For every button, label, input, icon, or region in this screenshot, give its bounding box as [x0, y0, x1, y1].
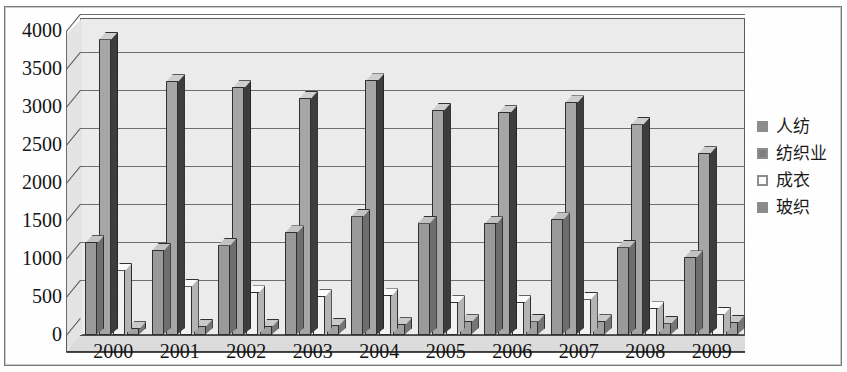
bar-side-face — [709, 146, 717, 335]
bar-front-face — [684, 257, 696, 335]
y-axis-tick-label: 3500 — [0, 58, 62, 78]
x-axis-tick-label: 2001 — [147, 339, 213, 363]
legend-swatch-icon — [757, 148, 768, 159]
bar-side-face — [642, 117, 650, 335]
y-axis-tick-label: 2500 — [0, 134, 62, 154]
bar-side-face — [177, 74, 185, 335]
y-axis-tick-label: 2000 — [0, 172, 62, 192]
bar-side-face — [296, 225, 304, 335]
bar-side-face — [495, 216, 503, 335]
y-axis-tick-label: 3000 — [0, 96, 62, 116]
legend-item-label: 纺织业 — [776, 144, 827, 163]
chart-legend: 人纺纺织业成衣玻织 — [757, 113, 843, 221]
legend-swatch-icon — [757, 202, 768, 213]
x-axis-tick-label: 2008 — [612, 339, 678, 363]
gridline — [80, 52, 745, 53]
bar-人纺-2009 — [684, 257, 696, 335]
legend-item-label: 人纺 — [776, 117, 810, 136]
bar-side-face — [509, 105, 517, 335]
chart-screenshot: 05001000150020002500300035004000 2000200… — [0, 0, 847, 372]
bar-side-face — [124, 263, 132, 335]
bar-side-face — [229, 238, 237, 335]
bar-side-face — [695, 250, 703, 335]
chart-plot-3d: 05001000150020002500300035004000 2000200… — [0, 0, 847, 372]
bar-side-face — [163, 243, 171, 335]
y-axis-tick-label: 500 — [0, 286, 62, 306]
y-axis-tick-label: 0 — [0, 324, 62, 344]
x-axis-tick-label: 2000 — [80, 339, 146, 363]
bar-人纺-2006 — [484, 223, 496, 335]
bar-人纺-2002 — [218, 245, 230, 335]
bar-人纺-2007 — [551, 219, 563, 335]
legend-item-label: 成衣 — [776, 171, 810, 190]
bar-人纺-2008 — [617, 247, 629, 335]
bar-人纺-2000 — [85, 242, 97, 335]
bar-side-face — [576, 95, 584, 335]
bar-人纺-2003 — [285, 232, 297, 335]
bar-side-face — [110, 32, 118, 335]
bar-side-face — [443, 103, 451, 335]
legend-swatch-icon — [757, 121, 768, 132]
x-axis-tick-label: 2004 — [346, 339, 412, 363]
bar-front-face — [85, 242, 97, 335]
chart-baseline — [80, 335, 745, 336]
bar-人纺-2001 — [152, 250, 164, 335]
y-axis-tick-label: 4000 — [0, 20, 62, 40]
y-axis-tick-labels: 05001000150020002500300035004000 — [0, 0, 62, 372]
chart-left-wall — [66, 18, 82, 352]
legend-item-成衣: 成衣 — [757, 167, 843, 194]
bar-人纺-2004 — [351, 216, 363, 335]
legend-item-玻织: 玻织 — [757, 194, 843, 221]
bar-side-face — [243, 80, 251, 335]
bar-人纺-2005 — [418, 223, 430, 335]
bar-front-face — [218, 245, 230, 335]
x-axis-tick-label: 2002 — [213, 339, 279, 363]
gridline — [80, 14, 745, 15]
bar-front-face — [152, 250, 164, 335]
x-axis-tick-label: 2007 — [546, 339, 612, 363]
bar-front-face — [484, 223, 496, 335]
bar-side-face — [362, 209, 370, 335]
x-axis-tick-label: 2006 — [479, 339, 545, 363]
bar-front-face — [351, 216, 363, 335]
bar-side-face — [310, 91, 318, 335]
bar-front-face — [617, 247, 629, 335]
y-axis-tick-label: 1500 — [0, 210, 62, 230]
bar-side-face — [429, 216, 437, 335]
bar-side-face — [96, 235, 104, 335]
bar-side-face — [191, 279, 199, 335]
x-axis-tick-label: 2003 — [280, 339, 346, 363]
bar-side-face — [376, 73, 384, 335]
legend-item-人纺: 人纺 — [757, 113, 843, 140]
bar-side-face — [628, 240, 636, 335]
bar-front-face — [285, 232, 297, 335]
x-axis-tick-label: 2005 — [413, 339, 479, 363]
bar-front-face — [551, 219, 563, 335]
x-axis-tick-label: 2009 — [679, 339, 745, 363]
bar-side-face — [562, 212, 570, 335]
bar-front-face — [418, 223, 430, 335]
legend-item-label: 玻织 — [776, 198, 810, 217]
y-axis-tick-label: 1000 — [0, 248, 62, 268]
legend-item-纺织业: 纺织业 — [757, 140, 843, 167]
legend-swatch-icon — [757, 175, 768, 186]
